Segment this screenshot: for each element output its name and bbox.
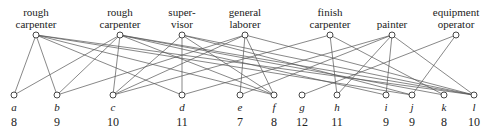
- edge-rc1-a: [14, 35, 36, 95]
- worker-value: 11: [331, 115, 343, 130]
- worker-node-i: [383, 92, 389, 98]
- worker-value: 9: [409, 115, 415, 130]
- edge-rc1-j: [36, 35, 412, 95]
- worker-node-a: [11, 92, 17, 98]
- worker-value: 9: [54, 115, 60, 130]
- edge-fc-h: [330, 35, 337, 95]
- worker-node-j: [409, 92, 415, 98]
- worker-label: a: [11, 101, 17, 113]
- worker-label: h: [334, 101, 340, 113]
- worker-value: 10: [107, 115, 119, 130]
- job-node-gl: [242, 32, 248, 38]
- worker-value: 8: [11, 115, 17, 130]
- job-node-pa: [389, 32, 395, 38]
- worker-node-b: [54, 92, 60, 98]
- worker-node-h: [334, 92, 340, 98]
- job-label: equipment operator: [433, 6, 479, 30]
- worker-label: l: [472, 101, 475, 113]
- worker-node-d: [179, 92, 185, 98]
- job-node-eo: [453, 32, 459, 38]
- worker-node-f: [271, 92, 277, 98]
- worker-value: 7: [237, 115, 243, 130]
- worker-label: j: [410, 101, 413, 113]
- job-label: rough carpenter: [100, 6, 141, 30]
- job-node-rc1: [33, 32, 39, 38]
- worker-value: 8: [271, 115, 277, 130]
- worker-label: g: [299, 101, 305, 113]
- worker-node-g: [299, 92, 305, 98]
- edge-rc2-f: [120, 35, 274, 95]
- edge-sup-c: [113, 35, 182, 95]
- worker-value: 9: [383, 115, 389, 130]
- job-label: general laborer: [229, 6, 261, 30]
- edge-rc2-k: [120, 35, 444, 95]
- worker-label: i: [384, 101, 387, 113]
- worker-label: d: [179, 101, 185, 113]
- job-node-sup: [179, 32, 185, 38]
- worker-label: e: [238, 101, 243, 113]
- worker-node-l: [471, 92, 477, 98]
- worker-value: 10: [468, 115, 480, 130]
- worker-value: 11: [176, 115, 188, 130]
- worker-label: b: [54, 101, 60, 113]
- edge-rc2-c: [113, 35, 120, 95]
- job-label: super- visor: [168, 6, 195, 30]
- edge-sup-f: [182, 35, 274, 95]
- job-label: finish carpenter: [310, 6, 351, 30]
- job-label: painter: [377, 18, 408, 30]
- edge-rc1-l: [36, 35, 474, 95]
- worker-node-k: [441, 92, 447, 98]
- edge-gl-e: [240, 35, 245, 95]
- worker-value: 8: [441, 115, 447, 130]
- edge-gl-f: [245, 35, 274, 95]
- edge-rc2-a: [14, 35, 120, 95]
- worker-label: k: [442, 101, 447, 113]
- job-label: rough carpenter: [16, 6, 57, 30]
- worker-value: 12: [296, 115, 308, 130]
- worker-node-c: [110, 92, 116, 98]
- worker-label: f: [272, 101, 275, 113]
- edges-layer: [14, 35, 474, 95]
- job-node-rc2: [117, 32, 123, 38]
- worker-node-e: [237, 92, 243, 98]
- edge-pa-h: [337, 35, 392, 95]
- worker-label: c: [111, 101, 116, 113]
- job-node-fc: [327, 32, 333, 38]
- edge-pa-e: [240, 35, 392, 95]
- edge-eo-j: [412, 35, 456, 95]
- edge-rc1-f: [36, 35, 274, 95]
- edge-rc1-b: [36, 35, 57, 95]
- edge-gl-b: [57, 35, 245, 95]
